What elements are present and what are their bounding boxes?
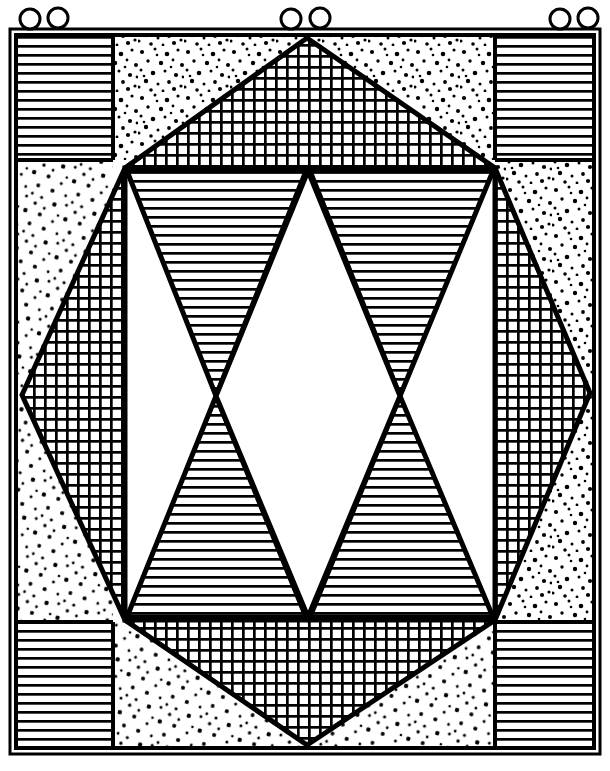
hanging-ring-1 bbox=[20, 9, 40, 29]
quilt-drawing bbox=[0, 0, 610, 771]
corner-block-bottom-right bbox=[495, 622, 594, 748]
quilt-illustration-canvas bbox=[0, 0, 610, 771]
corner-block-bottom-left bbox=[16, 622, 113, 748]
hanging-ring-3 bbox=[281, 9, 301, 29]
hanging-ring-5 bbox=[550, 9, 570, 29]
corner-block-top-left bbox=[16, 35, 113, 160]
hanging-ring-2 bbox=[48, 8, 68, 28]
corner-block-top-right bbox=[495, 35, 594, 160]
hanging-ring-4 bbox=[310, 8, 330, 28]
hanging-ring-6 bbox=[578, 8, 598, 28]
